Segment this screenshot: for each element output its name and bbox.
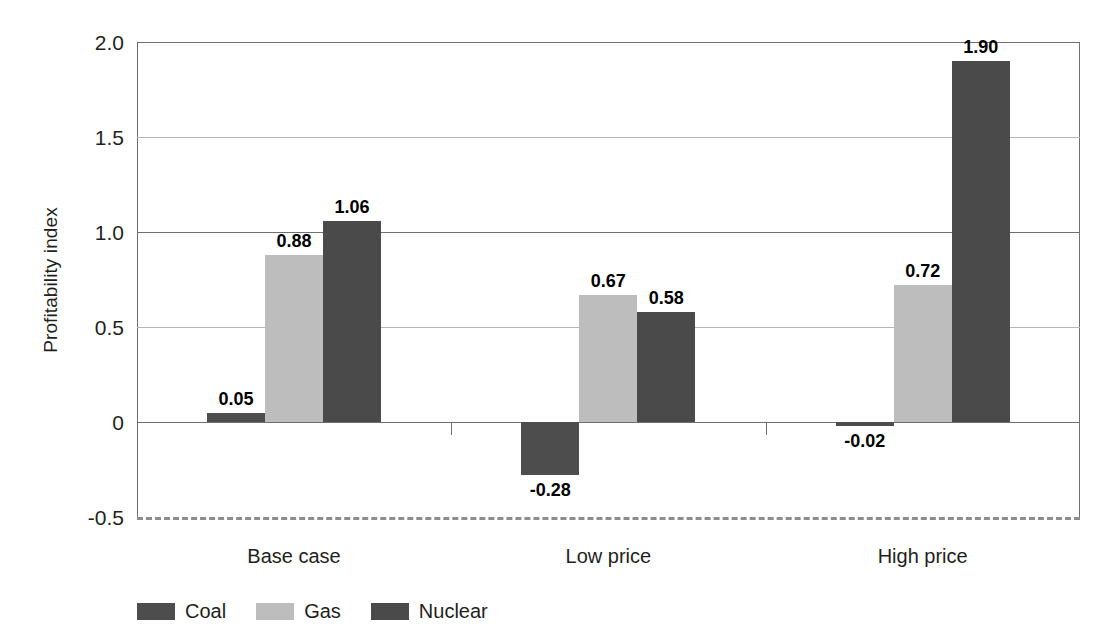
legend-swatch-icon	[256, 603, 294, 620]
legend-item-nuclear[interactable]: Nuclear	[371, 600, 488, 623]
gridline	[137, 517, 1080, 520]
bar-coal-high-price	[836, 422, 894, 426]
category-label-low-price: Low price	[566, 545, 652, 568]
legend-label: Coal	[185, 600, 226, 623]
x-axis-tick	[1079, 422, 1080, 435]
bar-value-label: -0.02	[824, 432, 906, 450]
bar-nuclear-high-price	[952, 61, 1010, 422]
bar-gas-low-price	[579, 295, 637, 422]
gridline	[137, 422, 1080, 423]
legend-swatch-icon	[137, 603, 175, 620]
legend-item-gas[interactable]: Gas	[256, 600, 341, 623]
bar-value-label: -0.28	[509, 481, 591, 499]
y-axis-line	[137, 42, 138, 517]
category-label-high-price: High price	[878, 545, 968, 568]
bar-value-label: 0.67	[567, 272, 649, 290]
gridline	[137, 42, 1080, 43]
x-axis-tick	[766, 422, 767, 435]
bar-coal-low-price	[521, 422, 579, 475]
gridline	[137, 137, 1080, 138]
bar-gas-high-price	[894, 285, 952, 422]
bar-chart-figure: Profitability index 2.01.51.00.50-0.5 0.…	[0, 0, 1106, 638]
y-tick-label: -0.5	[60, 507, 124, 528]
bar-value-label: 1.90	[940, 38, 1022, 56]
y-tick-label: 1.5	[60, 127, 124, 148]
chart-legend: CoalGasNuclear	[137, 600, 518, 623]
y-axis-tick-labels: 2.01.51.00.50-0.5	[60, 0, 124, 638]
y-tick-label: 0	[60, 412, 124, 433]
legend-label: Gas	[304, 600, 341, 623]
bar-gas-base-case	[265, 255, 323, 422]
y-tick-label: 2.0	[60, 32, 124, 53]
bar-value-label: 0.58	[625, 289, 707, 307]
plot-area: 0.050.881.06-0.280.670.58-0.020.721.90	[137, 42, 1080, 517]
legend-label: Nuclear	[419, 600, 488, 623]
bar-nuclear-low-price	[637, 312, 695, 422]
plot-right-border	[1079, 42, 1080, 517]
bar-coal-base-case	[207, 413, 265, 423]
category-label-base-case: Base case	[247, 545, 340, 568]
bar-nuclear-base-case	[323, 221, 381, 422]
bar-value-label: 1.06	[311, 198, 393, 216]
y-tick-label: 0.5	[60, 317, 124, 338]
y-tick-label: 1.0	[60, 222, 124, 243]
legend-item-coal[interactable]: Coal	[137, 600, 226, 623]
legend-swatch-icon	[371, 603, 409, 620]
x-axis-tick	[451, 422, 452, 435]
